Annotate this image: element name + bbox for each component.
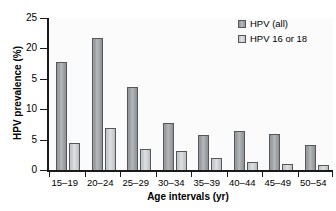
bar-1618 — [211, 158, 222, 170]
bar-1618 — [69, 143, 80, 170]
x-tick-label: 40–44 — [225, 176, 261, 189]
x-tick-label: 50–54 — [296, 176, 332, 189]
legend-item-hpv-all: HPV (all) — [238, 17, 307, 30]
bar-1618 — [247, 162, 258, 170]
legend-item-hpv-16-or-18: HPV 16 or 18 — [238, 32, 307, 45]
x-axis-title: Age intervals (yr) — [40, 191, 336, 202]
chart-figure: HPV prevalence (%) 25 20 5 10 5 0 — [0, 0, 336, 211]
bar-all — [198, 135, 209, 170]
bar-all — [234, 131, 245, 170]
y-axis-title: HPV prevalence (%) — [11, 18, 25, 168]
x-tick-label: 35–39 — [189, 176, 225, 189]
bar-group — [49, 18, 85, 170]
bar-all — [56, 62, 67, 170]
plot-area: 25 20 5 10 5 0 — [47, 18, 333, 172]
y-tick-label-15: 5 — [31, 73, 37, 85]
bar-group — [156, 18, 192, 170]
bar-group — [85, 18, 121, 170]
y-tick-label-20: 20 — [26, 42, 37, 54]
legend-label: HPV (all) — [250, 17, 288, 30]
y-tick-20: 20 — [40, 48, 49, 49]
y-tick-label-10: 10 — [26, 103, 37, 115]
bar-1618 — [105, 128, 116, 170]
x-tick-label: 25–29 — [118, 176, 154, 189]
y-tick-label-25: 25 — [26, 12, 37, 24]
x-tick — [332, 170, 333, 177]
x-tick-label: 30–34 — [154, 176, 190, 189]
bar-all — [269, 134, 280, 170]
legend-swatch-icon — [238, 35, 246, 43]
bar-all — [127, 87, 138, 170]
bar-group — [120, 18, 156, 170]
bar-all — [92, 38, 103, 170]
y-tick-10: 10 — [40, 109, 49, 110]
y-tick-label-5: 5 — [31, 134, 37, 146]
x-tick-label: 45–49 — [260, 176, 296, 189]
y-tick-0: 0 — [40, 170, 49, 171]
legend: HPV (all) HPV 16 or 18 — [238, 17, 307, 47]
bar-1618 — [140, 149, 151, 170]
bar-1618 — [282, 164, 293, 170]
legend-label: HPV 16 or 18 — [250, 32, 307, 45]
x-tick-labels: 15–19 20–24 25–29 30–34 35–39 40–44 45–4… — [47, 176, 331, 189]
y-tick-label-0: 0 — [31, 164, 37, 176]
bar-group — [191, 18, 227, 170]
y-tick-5: 5 — [40, 140, 49, 141]
bar-1618 — [318, 165, 329, 170]
x-tick-label: 20–24 — [83, 176, 119, 189]
legend-swatch-icon — [238, 20, 246, 28]
x-tick-label: 15–19 — [47, 176, 83, 189]
bar-all — [305, 145, 316, 170]
bar-all — [163, 123, 174, 170]
bar-1618 — [176, 151, 187, 170]
y-tick-25: 25 — [40, 18, 49, 19]
y-tick-15: 5 — [40, 79, 49, 80]
